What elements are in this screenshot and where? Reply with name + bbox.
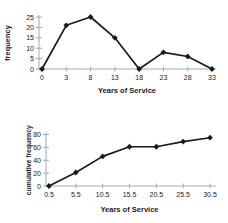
- frequency-polygon-chart: 05101520250381318232833Years of Servicef…: [0, 0, 228, 106]
- y-tick-label: 20: [26, 24, 34, 31]
- x-tick-label: 33: [208, 74, 216, 81]
- x-tick-label: 23: [160, 74, 168, 81]
- y-axis-title: frequency: [3, 24, 12, 61]
- x-tick-label: 5.5: [71, 191, 81, 198]
- cumulative-frequency-chart: 0204060800.55.510.515.520.525.530.5Years…: [0, 112, 228, 223]
- x-tick-label: 0: [40, 74, 44, 81]
- data-point-marker: [127, 144, 133, 150]
- y-tick-label: 10: [26, 45, 34, 52]
- x-tick-label: 8: [89, 74, 93, 81]
- y-tick-label: 25: [26, 14, 34, 21]
- y-tick-label: 15: [26, 34, 34, 41]
- data-point-marker: [185, 54, 191, 60]
- x-tick-label: 13: [111, 74, 119, 81]
- y-tick-label: 80: [33, 131, 41, 138]
- x-axis-title: Years of Service: [101, 205, 159, 214]
- data-point-marker: [153, 144, 159, 150]
- x-tick-label: 0.5: [44, 191, 54, 198]
- data-point-marker: [209, 66, 215, 72]
- data-point-marker: [46, 183, 52, 189]
- data-point-marker: [207, 135, 213, 141]
- y-tick-label: 60: [33, 144, 41, 151]
- x-tick-label: 30.5: [203, 191, 217, 198]
- x-tick-label: 18: [135, 74, 143, 81]
- y-tick-label: 20: [33, 170, 41, 177]
- x-tick-label: 3: [64, 74, 68, 81]
- x-tick-label: 10.5: [96, 191, 110, 198]
- x-tick-label: 15.5: [123, 191, 137, 198]
- y-tick-label: 40: [33, 157, 41, 164]
- x-tick-label: 28: [184, 74, 192, 81]
- y-tick-label: 0: [37, 183, 41, 190]
- y-tick-label: 0: [30, 66, 34, 73]
- y-tick-label: 5: [30, 55, 34, 62]
- x-tick-label: 25.5: [176, 191, 190, 198]
- y-axis-title: cumulative frequency: [25, 125, 33, 195]
- two-panel-figure: 05101520250381318232833Years of Servicef…: [0, 0, 228, 223]
- x-tick-label: 20.5: [150, 191, 164, 198]
- x-axis-title: Years of Service: [98, 86, 156, 95]
- data-point-marker: [180, 139, 186, 145]
